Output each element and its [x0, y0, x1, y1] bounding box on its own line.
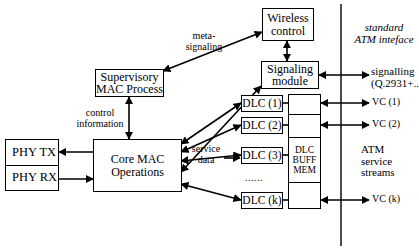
buff-segment-label: DLC BUFF MEM	[289, 138, 320, 183]
core-mac-line1: Core MAC	[111, 153, 165, 165]
buff-segment-2	[289, 115, 320, 139]
port-vc-1: VC (1)	[372, 97, 400, 108]
node-dlc-3[interactable]: DLC (3)	[241, 147, 283, 164]
buff-segment-1	[289, 95, 320, 115]
control-information-line2: information	[72, 119, 128, 130]
meta-signaling-line1: meta-	[176, 31, 232, 42]
dlc-1-label: DLC (1)	[242, 98, 281, 110]
label-meta-signaling: meta- signaling	[176, 31, 232, 52]
service-data-line1: service	[186, 144, 226, 155]
dlc-k-label: DLC (k)	[242, 195, 281, 207]
port-signalling-q2931: signalling (Q.2931+..)	[371, 66, 419, 89]
signalling-port-line1: signalling	[371, 66, 419, 78]
wireless-atm-mac-diagram: Wireless control Signaling module Superv…	[0, 0, 419, 250]
streams-line1: ATM	[361, 144, 413, 156]
control-information-line1: control	[72, 108, 128, 119]
signaling-module-line2: module	[272, 75, 308, 87]
node-dlc-1[interactable]: DLC (1)	[241, 95, 283, 112]
node-core-mac-operations[interactable]: Core MAC Operations	[93, 139, 182, 192]
atm-interface-line2: ATM inteface	[350, 34, 418, 46]
phy-rx-cell[interactable]: PHY RX	[6, 166, 58, 191]
service-data-line2: data	[186, 155, 226, 166]
port-vc-2: VC (2)	[372, 119, 400, 130]
buff-mem-line1: DLC	[295, 145, 314, 155]
meta-signaling-line2: signaling	[176, 42, 232, 53]
node-signaling-module[interactable]: Signaling module	[261, 61, 319, 89]
wireless-control-line2: control	[271, 25, 305, 37]
edge-core-mac-dlc-k	[181, 184, 241, 200]
dlc-ellipsis: ......	[245, 172, 263, 183]
caption-standard-atm-interface: standard ATM inteface	[350, 22, 418, 45]
phy-tx-cell[interactable]: PHY TX	[6, 140, 58, 166]
node-wireless-control[interactable]: Wireless control	[262, 8, 314, 41]
node-phy-layer[interactable]: PHY TX PHY RX	[5, 139, 59, 191]
buff-mem-line2: BUFF	[293, 155, 317, 165]
streams-line3: streams	[361, 167, 413, 179]
buff-mem-line3: MEM	[293, 165, 316, 175]
supervisory-mac-line2: MAC Process	[96, 83, 163, 95]
core-mac-line2: Operations	[111, 166, 164, 178]
wireless-control-line1: Wireless	[267, 12, 309, 24]
port-vc-k: VC (k)	[372, 194, 400, 205]
dlc-2-label: DLC (2)	[242, 120, 281, 132]
node-dlc-2[interactable]: DLC (2)	[241, 117, 283, 134]
node-dlc-buff-mem[interactable]: DLC BUFF MEM	[288, 94, 321, 209]
node-supervisory-mac-process[interactable]: Supervisory MAC Process	[95, 69, 164, 97]
buff-segment-4	[289, 183, 320, 208]
node-dlc-k[interactable]: DLC (k)	[241, 192, 283, 209]
signalling-port-line2: (Q.2931+..)	[371, 78, 419, 90]
dlc-3-label: DLC (3)	[242, 150, 281, 162]
caption-atm-service-streams: ATM service streams	[361, 144, 413, 179]
atm-interface-line1: standard	[350, 22, 418, 34]
label-control-information: control information	[72, 108, 128, 129]
label-service-data: service data	[186, 144, 226, 165]
